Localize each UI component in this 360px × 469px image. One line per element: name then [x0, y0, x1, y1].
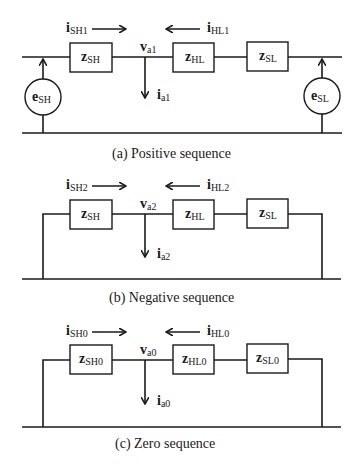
node-voltage-label: va1	[140, 39, 156, 55]
current-sh0-label: iSH0	[66, 323, 88, 339]
sequence-networks-diagram: eSH eSL zSH zHL zSL va1 ia1 iSH1 iHL1 (a…	[0, 0, 360, 469]
current-sh-label: iSH1	[66, 20, 88, 36]
current-hl0-label: iHL0	[207, 323, 229, 339]
caption-zero-sequence: (c) Zero sequence	[115, 436, 215, 452]
negative-sequence-network: zSH zHL zSL va2 ia2 iSH2 iHL2 (b) Negati…	[22, 177, 341, 306]
caption-negative-sequence: (b) Negative sequence	[109, 290, 234, 306]
current-sh-label: iSH2	[66, 177, 88, 193]
caption-positive-sequence: (a) Positive sequence	[112, 146, 231, 162]
current-hl-label: iHL1	[207, 20, 229, 36]
right-return-wire	[288, 214, 322, 279]
current-hl-label: iHL2	[207, 177, 229, 193]
zero-sequence-network: zSH0 zHL0 zSL0 va0 ia0 iSH0 iHL0 (c) Zer…	[22, 323, 341, 452]
left-return-wire	[43, 360, 70, 427]
fault-current-label: ia0	[157, 393, 170, 409]
node-voltage-label: va2	[140, 196, 156, 212]
fault-current-label: ia2	[157, 246, 170, 262]
left-return-wire	[43, 214, 70, 279]
positive-sequence-network: eSH eSL zSH zHL zSL va1 ia1 iSH1 iHL1 (a…	[22, 20, 342, 162]
fault-current-label: ia1	[157, 87, 170, 103]
right-return-wire	[288, 359, 322, 427]
node-voltage-label: va0	[140, 342, 156, 358]
